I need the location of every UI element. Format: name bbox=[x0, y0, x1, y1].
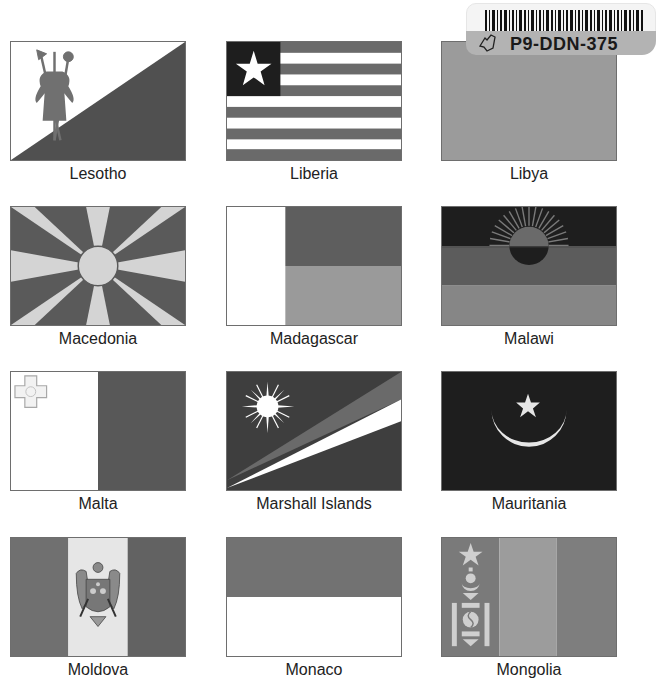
flag-label: Monaco bbox=[206, 661, 422, 679]
flag-label: Liberia bbox=[206, 165, 422, 183]
flag-label: Malta bbox=[0, 495, 206, 513]
flag-image-lesotho bbox=[10, 41, 186, 161]
flag-label: Lesotho bbox=[0, 165, 206, 183]
sticker-code: P9-DDN-375 bbox=[510, 34, 618, 55]
flag-label: Malawi bbox=[421, 330, 637, 348]
flag-image-libya bbox=[441, 41, 617, 161]
flag-image-malawi bbox=[441, 206, 617, 326]
flag-image-mauritania bbox=[441, 371, 617, 491]
flag-image-liberia bbox=[226, 41, 402, 161]
flag-image-moldova bbox=[10, 537, 186, 657]
flag-image-malta bbox=[10, 371, 186, 491]
flag-image-madagascar bbox=[226, 206, 402, 326]
flag-image-monaco bbox=[226, 537, 402, 657]
flag-label: Marshall Islands bbox=[206, 495, 422, 513]
flag-label: Libya bbox=[421, 165, 637, 183]
flag-label: Madagascar bbox=[206, 330, 422, 348]
flag-image-macedonia bbox=[10, 206, 186, 326]
sticker-label-strip: P9-DDN-375 bbox=[466, 31, 656, 55]
flag-label: Mongolia bbox=[421, 661, 637, 679]
barcode-icon bbox=[485, 10, 643, 32]
map-outline-icon bbox=[478, 34, 498, 52]
flag-label: Moldova bbox=[0, 661, 206, 679]
flag-image-mongolia bbox=[441, 537, 617, 657]
flag-label: Macedonia bbox=[0, 330, 206, 348]
flag-image-marshall-islands bbox=[226, 371, 402, 491]
flag-label: Mauritania bbox=[421, 495, 637, 513]
barcode-sticker: P9-DDN-375 bbox=[466, 3, 656, 53]
barcode-area bbox=[466, 3, 656, 33]
